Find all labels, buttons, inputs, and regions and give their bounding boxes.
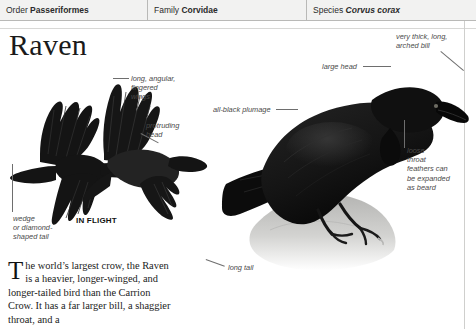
- annotation-all-black-plumage: all-black plumage: [213, 105, 271, 114]
- taxonomy-family-value: Corvidae: [181, 5, 217, 15]
- leader-wedge-tail: [12, 164, 13, 212]
- raven-eye: [434, 104, 438, 108]
- annotation-in-flight: IN FLIGHT: [76, 216, 117, 225]
- taxonomy-order-value: Passeriformes: [30, 5, 89, 15]
- taxonomy-family-label: Family: [154, 5, 181, 15]
- annotation-protruding-head: protruding head: [146, 121, 206, 139]
- taxonomy-species-value: Corvus corax: [346, 5, 400, 15]
- taxonomy-order-label: Order: [6, 5, 30, 15]
- species-description: The world’s largest crow, the Raven is a…: [8, 259, 176, 326]
- page-title: Raven: [9, 28, 87, 62]
- drop-cap: T: [8, 259, 25, 281]
- annotation-wedge-tail: wedge or diamond- shaped tail: [13, 214, 75, 242]
- annotation-arched-bill: very thick, long, arched bill: [396, 32, 468, 50]
- species-description-text: he world’s largest crow, the Raven is a …: [8, 260, 170, 325]
- leader-all-black-plumage: [276, 109, 298, 110]
- taxonomy-order: Order Passeriformes: [0, 0, 147, 20]
- annotation-throat-feathers: loose throat feathers can be expanded as…: [407, 146, 465, 192]
- annotation-fingered-wings: long, angular, fingered wings: [131, 74, 201, 102]
- taxonomy-species-label: Species: [313, 5, 346, 15]
- annotation-long-tail: long tail: [228, 263, 253, 272]
- leader-fingered-wings: [113, 78, 129, 79]
- taxonomy-family: Family Corvidae: [148, 0, 306, 20]
- leader-throat-feathers: [404, 120, 405, 148]
- field-guide-page: Order Passeriformes Family Corvidae Spec…: [0, 0, 476, 329]
- annotation-large-head: large head: [322, 62, 357, 71]
- leader-large-head: [363, 66, 391, 67]
- raven-bill: [436, 102, 469, 123]
- taxonomy-species: Species Corvus corax: [307, 0, 476, 20]
